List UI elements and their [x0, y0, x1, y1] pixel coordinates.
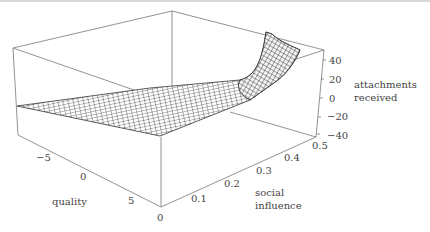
y-tick-0: 0	[157, 212, 163, 224]
z-tick-neg20: −20	[327, 111, 348, 123]
y-tick-0.3: 0.3	[256, 165, 272, 177]
y-axis-label-line1: social	[255, 187, 284, 199]
z-tick-40: 40	[329, 55, 342, 67]
z-tick-neg40: −40	[327, 130, 348, 142]
y-tick-0.5: 0.5	[312, 140, 328, 152]
z-axis-label-line2: received	[354, 92, 397, 104]
z-tick-20: 20	[329, 74, 342, 86]
x-tick-5: 5	[128, 195, 134, 207]
y-tick-0.1: 0.1	[191, 193, 207, 205]
z-axis-label-line1: attachments	[354, 79, 417, 91]
y-tick-0.4: 0.4	[284, 152, 300, 164]
x-tick-0: 0	[80, 171, 86, 183]
z-axis-ticks	[317, 60, 326, 134]
x-tick-neg5: −5	[36, 152, 51, 164]
x-axis-label: quality	[52, 196, 87, 208]
y-axis-label-line2: influence	[255, 200, 302, 212]
z-tick-0: 0	[329, 93, 335, 105]
y-tick-0.2: 0.2	[224, 178, 240, 190]
